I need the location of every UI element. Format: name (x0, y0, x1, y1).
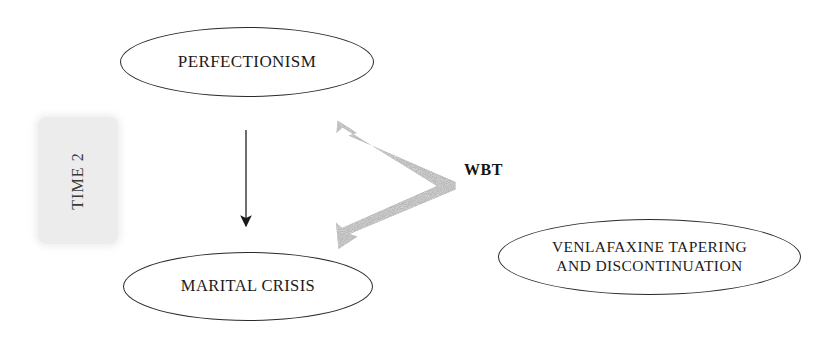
time-band-label: TIME 2 (69, 152, 87, 210)
wbt-label: WBT (464, 161, 503, 179)
time-band: TIME 2 (38, 117, 118, 244)
node-perfectionism-label: PERFECTIONISM (178, 52, 316, 73)
arrow-wbt-double-chevron (336, 121, 456, 250)
node-venlafaxine-tapering-label: VENLAFAXINE TAPERING AND DISCONTINUATION (552, 238, 747, 276)
node-perfectionism: PERFECTIONISM (120, 27, 374, 97)
node-marital-crisis-label: MARITAL CRISIS (181, 276, 315, 296)
node-venlafaxine-tapering: VENLAFAXINE TAPERING AND DISCONTINUATION (498, 219, 801, 295)
diagram-canvas: TIME 2 PERFECTIONISM MARITAL CRISIS (0, 0, 836, 338)
node-marital-crisis: MARITAL CRISIS (123, 252, 373, 321)
